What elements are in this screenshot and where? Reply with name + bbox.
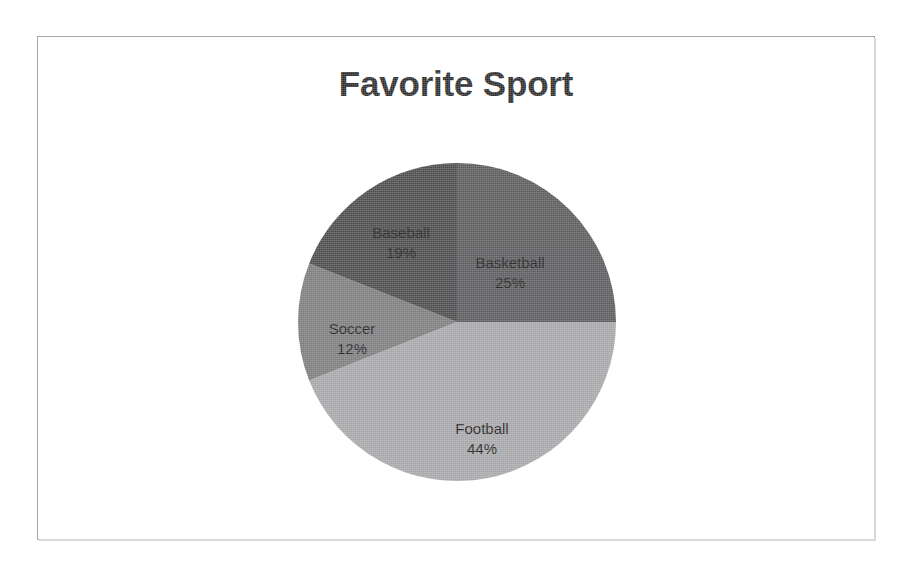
chart-frame: Favorite Sport Basketball 25% Football 4… — [37, 36, 875, 540]
chart-title: Favorite Sport — [38, 64, 874, 104]
page-canvas: Favorite Sport Basketball 25% Football 4… — [0, 0, 907, 569]
pie-svg — [298, 163, 616, 481]
pie-chart: Basketball 25% Football 44% Soccer 12% B… — [298, 163, 616, 481]
pie-slice-basketball[interactable] — [457, 163, 616, 322]
